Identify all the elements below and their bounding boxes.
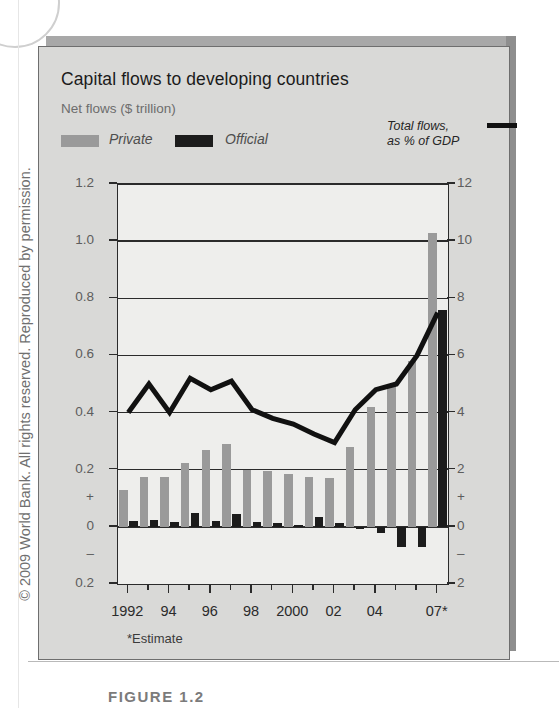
plot-area	[117, 183, 449, 585]
y-axis-tick-label-right: 6	[457, 346, 497, 362]
y-axis-tick-mark	[109, 468, 117, 469]
chart-title: Capital flows to developing countries	[61, 69, 349, 90]
y-axis-tick-label-left: 0.4	[50, 404, 94, 420]
x-axis-tick-mark	[127, 584, 128, 593]
page-divider-rule	[28, 661, 559, 662]
y-axis-tick-label-right: 2	[457, 461, 497, 477]
chart-figure: Capital flows to developing countries Ne…	[38, 46, 510, 660]
x-axis-tick-mark	[395, 584, 396, 590]
legend-label-total-flows: Total flows,as % of GDP	[387, 119, 479, 149]
legend-swatch-official	[175, 135, 213, 147]
y-axis-tick-label-right: 0	[457, 518, 497, 534]
y-axis-tick-mark	[109, 239, 117, 240]
y-axis-tick-label-left: –	[50, 546, 94, 562]
y-axis-tick-mark	[109, 354, 117, 355]
line-path	[128, 313, 437, 443]
y-axis-tick-label-right: 4	[457, 404, 497, 420]
x-axis-tick-mark	[374, 584, 375, 593]
y-axis-tick-label-left: 0.8	[50, 289, 94, 305]
y-axis-tick-mark	[447, 297, 455, 298]
x-axis-tick-mark	[333, 584, 334, 593]
x-axis-tick-mark	[353, 584, 354, 590]
y-axis-tick-label-left: 0	[50, 518, 94, 534]
y-axis-tick-mark	[109, 525, 117, 526]
y-axis-tick-label-right: 8	[457, 289, 497, 305]
y-axis-tick-mark	[447, 525, 455, 526]
legend-label-private: Private	[109, 131, 153, 147]
figure-caption: FIGURE 1.2	[108, 688, 368, 708]
x-axis-tick-mark	[230, 584, 231, 590]
y-axis-tick-label-right: 2	[457, 575, 497, 591]
y-axis-tick-mark	[109, 297, 117, 298]
y-axis-tick-label-right: 10	[457, 232, 497, 248]
x-axis-tick-mark	[436, 584, 437, 593]
x-axis-tick-mark	[271, 584, 272, 590]
x-axis-tick-label: 07*	[412, 603, 462, 619]
y-axis-tick-label-left: +	[50, 489, 94, 505]
y-axis-tick-label-left: 0.2	[50, 575, 94, 591]
legend-label-official: Official	[225, 131, 268, 147]
y-axis-tick-mark	[447, 582, 455, 583]
y-axis-tick-mark	[447, 182, 455, 183]
x-axis-tick-mark	[168, 584, 169, 593]
y-axis-tick-label-right: –	[457, 546, 497, 562]
x-axis-tick-mark	[312, 584, 313, 590]
estimate-footnote: *Estimate	[127, 631, 183, 646]
y-axis-tick-mark	[447, 468, 455, 469]
chart-subtitle: Net flows ($ trillion)	[61, 101, 176, 116]
x-axis-tick-mark	[250, 584, 251, 593]
y-axis-tick-label-right: 12	[457, 175, 497, 191]
figure-top-bevel	[46, 36, 516, 46]
y-axis-tick-label-left: 1.2	[50, 175, 94, 191]
y-axis-tick-mark	[109, 182, 117, 183]
y-axis-tick-mark	[447, 411, 455, 412]
x-axis-tick-label: 04	[350, 603, 400, 619]
legend-swatch-total-flows	[487, 123, 517, 128]
x-axis-tick-mark	[292, 584, 293, 593]
y-axis-tick-mark	[447, 239, 455, 240]
y-axis-tick-label-left: 0.6	[50, 346, 94, 362]
total-flows-line-series	[118, 184, 448, 584]
y-axis-tick-label-left: 0.2	[50, 461, 94, 477]
legend-swatch-private	[61, 135, 99, 147]
y-axis-tick-label-left: 1.0	[50, 232, 94, 248]
y-axis-tick-mark	[109, 582, 117, 583]
x-axis-tick-mark	[209, 584, 210, 593]
y-axis-tick-mark	[447, 354, 455, 355]
y-axis-tick-label-right: +	[457, 489, 497, 505]
x-axis-tick-mark	[147, 584, 148, 590]
y-axis-tick-mark	[109, 411, 117, 412]
x-axis-tick-mark	[188, 584, 189, 590]
x-axis-tick-mark	[415, 584, 416, 590]
